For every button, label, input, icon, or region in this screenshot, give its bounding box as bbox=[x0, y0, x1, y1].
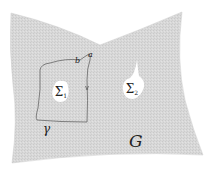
label-point-b: b bbox=[75, 56, 80, 65]
label-point-a: a bbox=[88, 50, 93, 59]
label-gamma: γ bbox=[43, 122, 51, 136]
label-region-g: G bbox=[129, 131, 143, 151]
diagram-canvas: Σ1 Σ2 γ G a b bbox=[0, 0, 214, 173]
region-g bbox=[10, 12, 203, 163]
